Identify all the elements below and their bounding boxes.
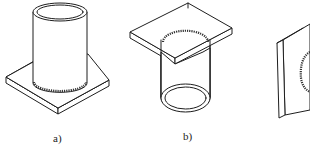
tube-a-body: [33, 12, 87, 92]
figure-a-drawing: [6, 3, 109, 114]
figure-a-caption: a): [53, 133, 62, 144]
figure-b-caption: b): [183, 131, 192, 142]
technical-drawing: [0, 0, 310, 152]
tube-a-top-outer: [33, 3, 87, 21]
figure-b-drawing: [130, 3, 232, 112]
figure-c-drawing: [277, 24, 310, 118]
tube-b-bottom-outer: [161, 84, 210, 112]
plate-c-side: [277, 40, 285, 118]
